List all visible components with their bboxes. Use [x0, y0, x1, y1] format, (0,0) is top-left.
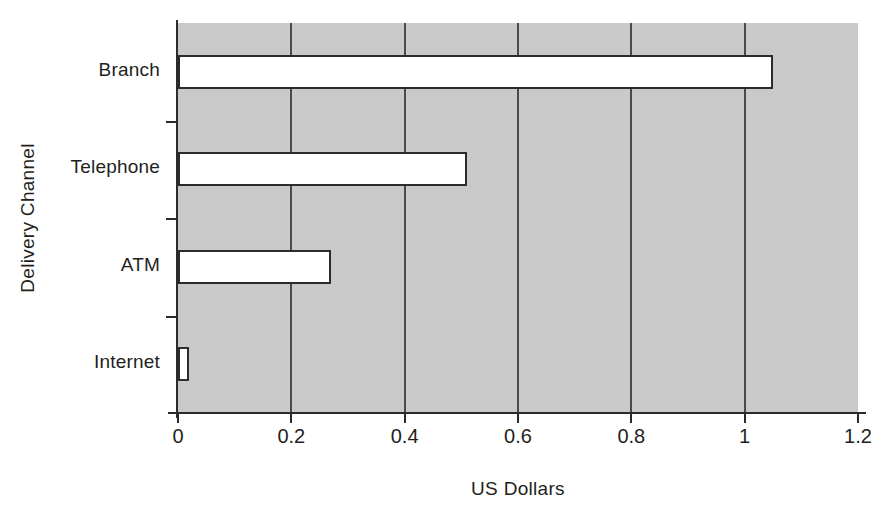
y-tick-label-atm: ATM [0, 254, 160, 276]
x-tick-label-0: 0 [138, 425, 218, 448]
x-tick-mark [517, 412, 519, 423]
y-tick-label-wrap: Internet [0, 351, 168, 373]
y-tick-mark [166, 316, 178, 318]
y-tick-label-branch: Branch [0, 59, 160, 81]
y-tick-mark [166, 121, 178, 123]
x-tick-label-1.2: 1.2 [818, 425, 889, 448]
x-tick-label-1: 1 [705, 425, 785, 448]
y-tick-mark [166, 218, 178, 220]
y-tick-label-wrap: ATM [0, 254, 168, 276]
bar-internet [178, 347, 189, 381]
y-tick-label-wrap: Branch [0, 59, 168, 81]
x-tick-label-0.4: 0.4 [365, 425, 445, 448]
y-tick-label-internet: Internet [0, 351, 160, 373]
x-tick-mark [857, 412, 859, 423]
x-tick-mark [744, 412, 746, 423]
x-axis-title: US Dollars [178, 478, 858, 500]
bar-branch [178, 55, 773, 89]
y-tick-label-telephone: Telephone [0, 156, 160, 178]
bar-atm [178, 250, 331, 284]
bar-chart-figure: Delivery Channel BranchTelephoneATMInter… [0, 0, 889, 524]
x-tick-mark [404, 412, 406, 423]
x-tick-mark [177, 412, 179, 423]
x-tick-mark [630, 412, 632, 423]
x-tick-label-0.8: 0.8 [591, 425, 671, 448]
bar-telephone [178, 152, 467, 186]
y-tick-label-wrap: Telephone [0, 156, 168, 178]
x-tick-label-0.2: 0.2 [251, 425, 331, 448]
x-tick-mark [290, 412, 292, 423]
x-tick-label-0.6: 0.6 [478, 425, 558, 448]
